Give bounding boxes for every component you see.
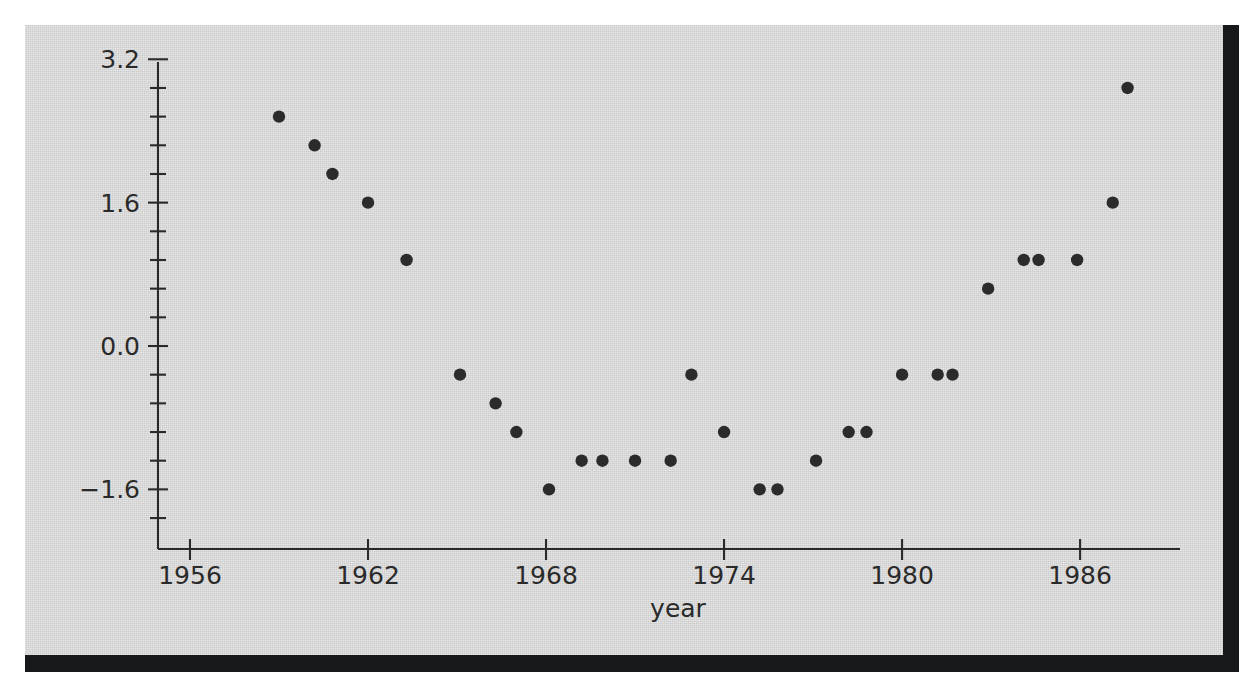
y-tick-label: 0.0 (100, 332, 140, 361)
data-point (860, 426, 872, 438)
x-tick-label: 1980 (870, 561, 934, 590)
data-point (1107, 196, 1119, 208)
data-point (510, 426, 522, 438)
data-point (1018, 254, 1030, 266)
data-point (753, 483, 765, 495)
y-tick-label: 1.6 (100, 189, 140, 218)
y-axis-tick-labels: −1.60.01.63.2 (79, 45, 140, 504)
x-tick-label: 1962 (336, 561, 400, 590)
data-point (362, 196, 374, 208)
y-tick-label: 3.2 (100, 45, 140, 74)
data-point (931, 368, 943, 380)
data-point (810, 454, 822, 466)
axes-group (158, 62, 1180, 549)
screenshot-root: −1.60.01.63.2 195619621968197419801986 y… (0, 0, 1250, 696)
data-point (596, 454, 608, 466)
data-point (896, 368, 908, 380)
data-point (454, 368, 466, 380)
data-point (308, 139, 320, 151)
x-tick-label: 1968 (514, 561, 578, 590)
data-point (1071, 254, 1083, 266)
data-point (575, 454, 587, 466)
data-point (718, 426, 730, 438)
x-tick-label: 1956 (158, 561, 222, 590)
data-point (400, 254, 412, 266)
x-tick-label: 1974 (692, 561, 756, 590)
data-point (946, 368, 958, 380)
data-point (685, 368, 697, 380)
data-point (543, 483, 555, 495)
scatter-plot-figure: −1.60.01.63.2 195619621968197419801986 y… (0, 0, 1250, 696)
y-tick-label: −1.6 (79, 475, 140, 504)
data-point (489, 397, 501, 409)
data-point (629, 454, 641, 466)
data-point (273, 110, 285, 122)
data-point (982, 282, 994, 294)
x-tick-label: 1986 (1048, 561, 1112, 590)
x-axis-title: year (650, 594, 706, 623)
data-point (1121, 82, 1133, 94)
data-point (771, 483, 783, 495)
x-axis-tick-labels: 195619621968197419801986 (158, 561, 1112, 590)
data-point (1032, 254, 1044, 266)
data-point (842, 426, 854, 438)
data-point (664, 454, 676, 466)
data-point (326, 168, 338, 180)
data-point-series (273, 82, 1134, 496)
